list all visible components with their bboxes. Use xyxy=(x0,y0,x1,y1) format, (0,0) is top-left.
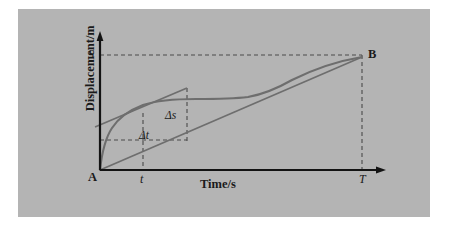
y-axis-label: Displacement/m xyxy=(84,18,97,118)
figure-screenshot: Displacement/m Time/s S T t A B Δs Δt xyxy=(0,0,450,230)
delta-s-annotation: Δs xyxy=(165,110,176,122)
x-mid-tick-label: t xyxy=(140,173,143,185)
delta-t-annotation: Δt xyxy=(139,130,149,142)
origin-point-label: A xyxy=(88,171,97,184)
x-axis-label: Time/s xyxy=(200,178,236,191)
end-point-label: B xyxy=(368,48,376,61)
x-max-tick-label: T xyxy=(359,173,366,185)
y-max-tick-label: S xyxy=(88,48,94,60)
